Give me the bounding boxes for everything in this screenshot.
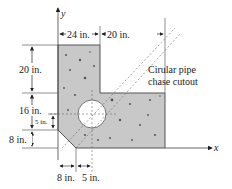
- dim-5in-bottom: 5 in.: [82, 172, 100, 183]
- dim-5in-hole: 5 in.: [35, 118, 48, 126]
- annotation-line1: Cirular pipe: [148, 64, 197, 75]
- dim-16in: 16 in.: [19, 105, 42, 116]
- concrete-section: [58, 45, 165, 148]
- dim-20in-left: 20 in.: [19, 64, 42, 75]
- dim-20in-top: 20 in.: [107, 29, 130, 40]
- y-axis-label: y: [60, 8, 66, 19]
- annotation-line2: chase cutout: [148, 76, 198, 87]
- x-axis-label: x: [213, 142, 219, 153]
- dim-8in-bottom: 8 in.: [57, 172, 75, 183]
- dim-24in: 24 in.: [67, 29, 90, 40]
- dim-8in-left: 8 in.: [9, 134, 27, 145]
- concrete-section-diagram: y x 24 in. 20 in. 20 in. 16 in. 5 in. 8 …: [0, 0, 232, 189]
